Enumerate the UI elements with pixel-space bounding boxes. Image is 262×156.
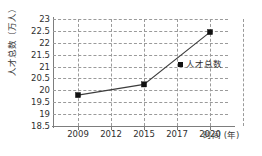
- data-series-layer: [53, 19, 228, 126]
- legend-label: 人才总数: [186, 60, 222, 69]
- x-axis-tick-label: 2009: [67, 130, 89, 139]
- y-axis-tick-label: 22: [39, 39, 50, 48]
- plot-area: [53, 19, 228, 126]
- y-axis-title: 人才总数（万人）: [8, 0, 17, 86]
- y-axis-tick-label: 19.5: [31, 98, 50, 107]
- x-axis-tick-label: 2012: [100, 130, 122, 139]
- gridline-vertical: [243, 19, 244, 126]
- data-point-marker: [207, 29, 212, 34]
- x-axis-tick-label: 2017: [166, 130, 188, 139]
- data-point-marker: [141, 82, 146, 87]
- data-point-marker: [75, 92, 80, 97]
- y-axis-tick-label: 18.5: [31, 122, 50, 131]
- y-axis-tick-label: 23: [39, 15, 50, 24]
- legend-swatch-icon: [178, 62, 183, 67]
- y-axis-tick-label: 21: [39, 62, 50, 71]
- y-axis-tick-label: 21.5: [31, 50, 50, 59]
- y-axis-tick-label: 20: [39, 86, 50, 95]
- y-axis-tick-label: 19: [39, 110, 50, 119]
- x-axis-tick-label: 2015: [133, 130, 155, 139]
- y-axis-tick-label: 20.5: [31, 74, 50, 83]
- line-chart: 人才总数（万人） 18.51919.52020.52121.52222.523 …: [0, 0, 262, 156]
- chart-legend: 人才总数: [178, 60, 222, 69]
- y-axis-tick-label: 22.5: [31, 27, 50, 36]
- x-axis-title: 时间 (年): [203, 131, 239, 140]
